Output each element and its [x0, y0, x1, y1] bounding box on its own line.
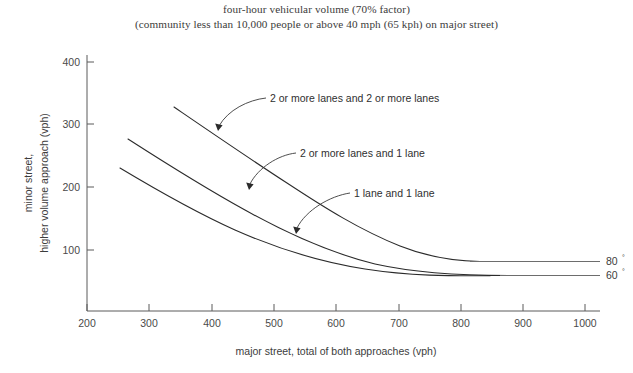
- annotation-curve-b: 2 or more lanes and 1 lane: [300, 147, 425, 159]
- x-tick-label-300: 300: [140, 317, 158, 329]
- y-tick-label-100: 100: [62, 244, 80, 256]
- x-tick-label-1000: 1000: [573, 317, 597, 329]
- end-label-60-mark: °: [622, 268, 625, 275]
- x-tick-label-200: 200: [78, 317, 96, 329]
- y-axis-title-line-2: higher volume approach (vph): [38, 113, 50, 253]
- x-axis-tick-labels: 200 300 400 500 600 700 800 900 1000: [78, 317, 597, 329]
- y-tick-label-400: 400: [62, 56, 80, 68]
- y-axis-ticks: [87, 62, 94, 250]
- curve-one-and-one: [120, 168, 490, 276]
- x-tick-label-400: 400: [203, 317, 221, 329]
- x-tick-label-500: 500: [265, 317, 283, 329]
- end-label-60: 60: [606, 269, 618, 281]
- y-axis-title-line-1: minor street,: [22, 154, 34, 212]
- y-tick-label-300: 300: [62, 118, 80, 130]
- x-axis-title: major street, total of both approaches (…: [236, 345, 437, 357]
- end-label-80: 80: [606, 255, 618, 267]
- x-tick-label-700: 700: [390, 317, 408, 329]
- leader-line-curve-b: [250, 153, 296, 184]
- leader-line-curve-a: [219, 98, 266, 126]
- y-tick-label-200: 200: [62, 181, 80, 193]
- annotation-curve-a: 2 or more lanes and 2 or more lanes: [270, 92, 439, 104]
- chart-figure: four-hour vehicular volume (70% factor) …: [0, 0, 633, 373]
- curve-two-or-more-and-two-or-more: [174, 107, 480, 262]
- end-label-60-group: 60 °: [606, 268, 625, 281]
- y-axis-tick-labels: 100 200 300 400: [62, 56, 80, 256]
- arrow-head-curve-c: [293, 227, 300, 234]
- chart-plot-svg: 100 200 300 400 200 300 400 500 600 700 …: [0, 0, 633, 373]
- leader-line-curve-c: [297, 193, 350, 228]
- x-tick-label-600: 600: [327, 317, 345, 329]
- end-label-80-group: 80 °: [606, 254, 625, 267]
- arrow-head-curve-b: [246, 183, 253, 190]
- x-tick-label-900: 900: [514, 317, 532, 329]
- annotation-curve-c: 1 lane and 1 lane: [354, 187, 435, 199]
- x-axis-ticks: [87, 304, 585, 311]
- arrow-head-curve-a: [215, 124, 222, 131]
- x-tick-label-800: 800: [452, 317, 470, 329]
- end-label-80-mark: °: [622, 254, 625, 261]
